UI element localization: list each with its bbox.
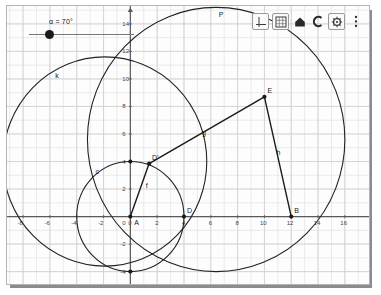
undo-button[interactable] [310,13,325,30]
svg-text:2: 2 [155,220,159,226]
home-button[interactable] [292,13,307,30]
point-D[interactable] [182,214,186,218]
point-label-A: A [134,219,139,226]
geometry-panel[interactable]: -8-6-4-2024681012141614121086420-2-4 ckP… [6,5,370,285]
grid-toggle-button[interactable] [272,13,289,30]
more-menu-button[interactable] [348,13,363,30]
point-E[interactable] [262,95,266,99]
grid-minor [7,6,369,284]
axes-toggle-button[interactable] [252,13,269,30]
applet-root: -8-6-4-2024681012141614121086420-2-4 ckP… [0,0,381,295]
point-label-B: B [294,207,299,214]
settings-button[interactable] [328,13,345,30]
circle-label-P: P [219,11,224,18]
slider-label: α = 70° [49,18,73,25]
point-label-E: E [267,87,272,94]
svg-text:-6: -6 [44,220,50,226]
point-Dp[interactable] [147,161,151,165]
point-B[interactable] [289,214,293,218]
svg-text:-2: -2 [98,220,104,226]
geometry-canvas[interactable]: -8-6-4-2024681012141614121086420-2-4 ckP… [7,6,369,284]
point-label-Dp: D' [152,154,158,161]
point-Ctop[interactable] [128,159,132,163]
point-A[interactable] [128,214,132,218]
circle-P[interactable] [87,7,344,271]
svg-text:12: 12 [122,48,129,54]
segment-label-h: h [276,149,280,156]
svg-text:10: 10 [122,76,129,82]
axes [7,6,369,284]
svg-text:6: 6 [209,220,213,226]
circle-label-c: c [95,168,99,175]
circles-layer[interactable] [7,7,345,271]
point-label-D: D [187,207,192,214]
grid-major [7,6,369,284]
svg-text:0: 0 [122,220,126,226]
point-Cbot[interactable] [128,270,132,274]
alpha-slider[interactable]: α = 70° [29,18,134,46]
svg-text:16: 16 [340,220,347,226]
segment-label-f: f [146,182,148,189]
svg-text:10: 10 [260,220,267,226]
svg-text:-2: -2 [120,241,126,247]
svg-text:0: 0 [128,220,132,226]
segment-f[interactable] [130,164,149,217]
slider-knob[interactable] [45,30,54,39]
segment-label-g: g [202,129,206,137]
circle-label-k: k [55,72,59,79]
view-toolbar[interactable] [252,12,363,31]
svg-text:12: 12 [287,220,294,226]
svg-text:8: 8 [236,220,240,226]
